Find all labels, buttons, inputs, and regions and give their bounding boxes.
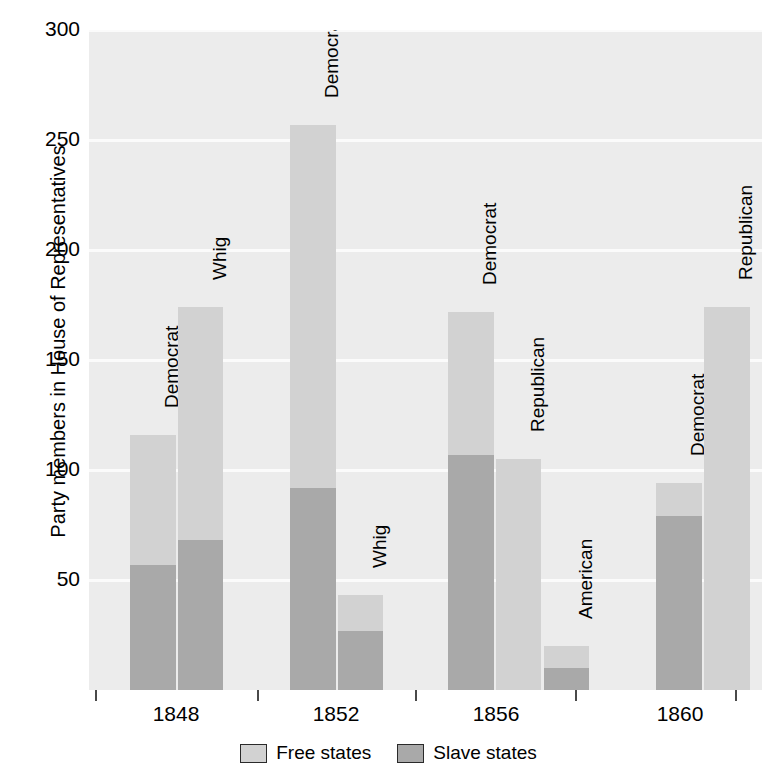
segment-slave-states xyxy=(448,455,494,690)
y-tick-label-300: 300 xyxy=(10,17,80,41)
segment-free-states xyxy=(130,435,176,565)
gridline-200 xyxy=(89,249,762,252)
y-tick-label-150: 150 xyxy=(10,347,80,371)
bar-1856-american[interactable] xyxy=(544,646,589,690)
x-tick-label-1852: 1852 xyxy=(281,702,391,726)
segment-free-states xyxy=(448,312,494,455)
segment-slave-states xyxy=(544,668,589,690)
bar-1848-whig[interactable] xyxy=(178,307,223,690)
segment-slave-states xyxy=(290,488,336,690)
y-tick-label-100: 100 xyxy=(10,457,80,481)
legend-swatch-icon xyxy=(240,744,267,763)
legend: Free statesSlave states xyxy=(0,742,777,764)
bar-1856-republican[interactable] xyxy=(496,459,541,690)
segment-free-states xyxy=(178,307,223,540)
bar-label-1860-republican: Republican xyxy=(736,185,755,280)
bar-label-1856-american: American xyxy=(576,539,595,619)
gridline-250 xyxy=(89,139,762,142)
x-tick-label-1856: 1856 xyxy=(441,702,551,726)
x-tick-label-1848: 1848 xyxy=(121,702,231,726)
y-tick-label-250: 250 xyxy=(10,127,80,151)
bar-1860-democrat[interactable] xyxy=(656,483,702,690)
bar-1860-republican[interactable] xyxy=(704,307,750,690)
segment-slave-states xyxy=(130,565,176,690)
bar-chart: Party members in House of Representative… xyxy=(0,0,777,777)
segment-free-states xyxy=(290,125,336,488)
bar-label-1852-whig: Whig xyxy=(370,525,389,568)
segment-slave-states xyxy=(656,516,702,690)
x-axis-tick-4 xyxy=(735,690,737,701)
bar-1852-whig[interactable] xyxy=(338,595,383,690)
x-axis-tick-1 xyxy=(257,690,259,701)
bar-label-1852-democrat: Democrat xyxy=(322,30,341,98)
x-axis-tick-3 xyxy=(575,690,577,701)
gridline-300 xyxy=(89,30,762,32)
bar-1856-democrat[interactable] xyxy=(448,312,494,690)
y-tick-label-50: 50 xyxy=(10,567,80,591)
x-axis-tick-2 xyxy=(415,690,417,701)
bar-label-1856-democrat: Democrat xyxy=(480,202,499,284)
plot-area: DemocratWhigDemocratWhigDemocratRepublic… xyxy=(89,30,762,690)
x-axis-tick-0 xyxy=(95,690,97,701)
legend-label: Slave states xyxy=(433,742,537,764)
segment-free-states xyxy=(704,307,750,690)
legend-label: Free states xyxy=(276,742,371,764)
bar-label-1848-whig: Whig xyxy=(210,237,229,280)
segment-free-states xyxy=(496,459,541,690)
x-tick-label-1860: 1860 xyxy=(625,702,735,726)
bar-label-1856-republican: Republican xyxy=(528,337,547,432)
segment-free-states xyxy=(656,483,702,516)
legend-item-slave-states[interactable]: Slave states xyxy=(397,742,537,764)
y-tick-label-200: 200 xyxy=(10,237,80,261)
x-axis-line xyxy=(89,690,762,691)
bar-1852-democrat[interactable] xyxy=(290,125,336,690)
segment-free-states xyxy=(338,595,383,630)
segment-slave-states xyxy=(178,540,223,690)
segment-slave-states xyxy=(338,631,383,690)
segment-free-states xyxy=(544,646,589,668)
legend-swatch-icon xyxy=(397,744,424,763)
bar-1848-democrat[interactable] xyxy=(130,435,176,690)
legend-item-free-states[interactable]: Free states xyxy=(240,742,371,764)
